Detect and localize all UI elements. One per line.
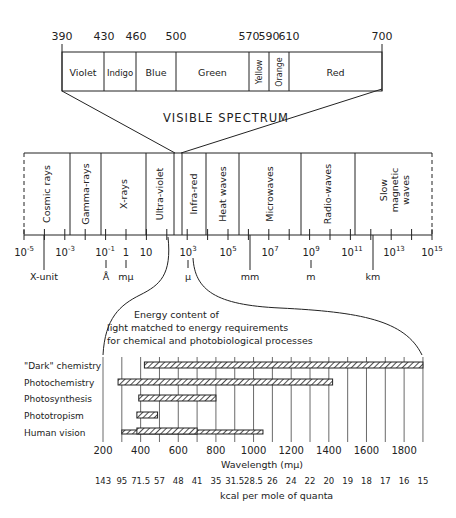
kcal-tick-label: 15	[418, 476, 429, 486]
kcal-tick-label: 16	[399, 476, 410, 486]
visible-band-yellow: Yellow	[255, 59, 264, 85]
visible-boundary-label: 430	[94, 30, 115, 43]
em-axis-tick-label: 107	[261, 245, 278, 258]
chart-category-labels: "Dark" chemistryPhotochemistryPhotosynth…	[24, 361, 102, 438]
kcal-tick-label: 41	[192, 476, 203, 486]
em-axis-tick-label: 1011	[341, 245, 363, 258]
visible-band-indigo: Indigo	[107, 68, 133, 78]
unit-label: X-unit	[30, 271, 58, 282]
unit-label: km	[366, 271, 381, 282]
kcal-tick-label: 17	[380, 476, 391, 486]
em-unit-markers: X-unitÅmμμmmmkm	[30, 235, 380, 282]
visible-band-blue: Blue	[145, 67, 166, 78]
kcal-tick-label: 48	[173, 476, 184, 486]
x-tick-label: 1600	[354, 445, 379, 456]
visible-boundary-label: 590	[259, 30, 280, 43]
unit-label: μ	[185, 271, 191, 282]
em-band-infra-red: Infra-red	[188, 174, 199, 215]
visible-spectrum: 390430460500570590610700 VioletIndigoBlu…	[52, 30, 393, 153]
visible-boundary-label: 570	[239, 30, 260, 43]
category-label: Phototropism	[24, 411, 84, 421]
em-band-radio-waves: Radio-waves	[322, 164, 333, 224]
em-axis-tick-label: 1015	[421, 245, 443, 258]
em-band-dividers	[70, 153, 355, 235]
chart-kcal-axis-label: kcal per mole of quanta	[220, 490, 333, 501]
em-spectrum: Cosmic raysGamma-raysX-raysUltra-violetI…	[14, 153, 443, 282]
em-band-ultra-violet: Ultra-violet	[154, 167, 165, 220]
kcal-tick-label: 26	[267, 476, 278, 486]
visible-spectrum-title: VISIBLE SPECTRUM	[163, 111, 289, 125]
chart-x-axis-label: Wavelength (mμ)	[221, 459, 303, 470]
caption-line: Energy content of	[134, 309, 219, 320]
unit-label: mμ	[118, 271, 133, 282]
energy-chart: Energy content oflight matched to energy…	[24, 309, 428, 501]
em-band-x-rays: X-rays	[118, 179, 129, 209]
em-axis-tick-label: 10-3	[55, 245, 75, 258]
x-tick-label: 800	[206, 445, 225, 456]
visible-band-orange: Orange	[275, 57, 284, 87]
visible-boundary-label: 390	[52, 30, 73, 43]
caption-line: for chemical and photobiological process…	[107, 335, 313, 346]
em-axis-tick-label: 109	[302, 245, 319, 258]
kcal-tick-label: 24	[286, 476, 297, 486]
unit-label: mm	[241, 271, 260, 282]
em-band-gamma-rays: Gamma-rays	[80, 163, 91, 224]
visible-band-red: Red	[326, 67, 344, 78]
visible-band-labels: VioletIndigoBlueGreenYellowOrangeRed	[70, 57, 345, 87]
visible-boundary-label: 700	[372, 30, 393, 43]
em-axis-tick-label: 10-5	[14, 245, 34, 258]
visible-boundary-label: 610	[279, 30, 300, 43]
bar	[118, 379, 333, 385]
kcal-tick-label: 143	[95, 476, 111, 486]
unit-label: m	[306, 271, 315, 282]
em-axis-tick-label: 10	[140, 247, 153, 258]
kcal-tick-label: 22	[305, 476, 316, 486]
caption-line: light matched to energy requirements	[107, 322, 288, 333]
kcal-tick-label: 35	[211, 476, 222, 486]
x-tick-label: 1000	[241, 445, 266, 456]
visible-boundary-labels: 390430460500570590610700	[52, 30, 393, 43]
kcal-tick-label: 19	[342, 476, 353, 486]
kcal-tick-label: 71.5	[131, 476, 150, 486]
x-tick-label: 400	[131, 445, 150, 456]
category-label: Photosynthesis	[24, 394, 92, 404]
kcal-tick-label: 57	[154, 476, 165, 486]
em-axis-tick-label: 103	[179, 245, 196, 258]
category-label: "Dark" chemistry	[24, 361, 102, 371]
bar	[137, 412, 158, 418]
em-band-microwaves: Microwaves	[264, 166, 275, 222]
category-label: Human vision	[24, 428, 86, 438]
em-band-slow-magnetic-waves: Slowmagneticwaves	[378, 168, 411, 213]
x-tick-label: 1200	[278, 445, 303, 456]
em-axis-ticks: 10-510-310-1110103105107109101110131015	[14, 229, 443, 258]
kcal-tick-label: 20	[323, 476, 334, 486]
unit-label: Å	[103, 271, 110, 282]
kcal-tick-label: 18	[361, 476, 372, 486]
svg-text:magnetic: magnetic	[389, 168, 400, 213]
x-tick-label: 1400	[316, 445, 341, 456]
chart-bars	[118, 362, 423, 434]
kcal-tick-label: 95	[116, 476, 127, 486]
em-band-heat-waves: Heat waves	[217, 166, 228, 222]
em-band-cosmic-rays: Cosmic rays	[41, 165, 52, 223]
energy-chart-caption: Energy content oflight matched to energy…	[107, 309, 313, 346]
bar	[144, 362, 423, 368]
category-label: Photochemistry	[24, 378, 95, 388]
visible-boundary-label: 460	[126, 30, 147, 43]
chart-kcal-tick-labels: 1439571.55748413531.528.5262422201918171…	[95, 476, 428, 486]
bar	[137, 428, 197, 434]
x-tick-label: 600	[169, 445, 188, 456]
visible-band-violet: Violet	[70, 67, 97, 78]
em-axis-tick-label: 10-1	[95, 245, 115, 258]
kcal-tick-label: 28.5	[244, 476, 263, 486]
kcal-tick-label: 31.5	[225, 476, 244, 486]
em-axis-tick-label: 1	[123, 247, 129, 258]
bar	[139, 395, 216, 401]
em-axis-tick-label: 105	[219, 245, 236, 258]
x-tick-label: 1800	[391, 445, 416, 456]
visible-band-green: Green	[198, 67, 227, 78]
x-tick-label: 200	[93, 445, 112, 456]
spectrum-diagram: 390430460500570590610700 VioletIndigoBlu…	[0, 0, 456, 518]
svg-text:Slow: Slow	[378, 179, 389, 201]
svg-text:waves: waves	[400, 175, 411, 205]
